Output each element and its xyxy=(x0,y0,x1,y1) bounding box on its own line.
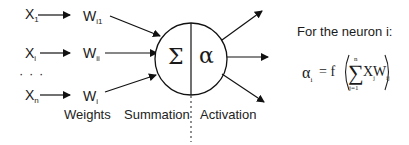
input-xi-label: X xyxy=(25,45,34,61)
input-xi-sub: i xyxy=(34,54,36,63)
weight-w1: Wi1 xyxy=(83,8,102,26)
formula-lower-limit: j=1 xyxy=(349,84,358,92)
weight-wn-sub: i xyxy=(96,97,98,106)
formula-w-sub: ij xyxy=(386,75,389,81)
weight-wi-label: W xyxy=(83,45,96,61)
input-x1-sub: 1 xyxy=(34,15,38,24)
formula-lhs: αi xyxy=(302,64,312,84)
output-arrow-bottom xyxy=(222,74,264,102)
weights-label: Weights xyxy=(64,107,111,122)
input-xn-sub: n xyxy=(34,96,38,105)
weight-arrow-n xyxy=(105,75,156,92)
input-x1-label: X xyxy=(25,6,34,22)
weight-w1-sub: i1 xyxy=(96,17,102,26)
input-xn: Xn xyxy=(25,87,39,105)
weight-w1-label: W xyxy=(83,8,96,24)
formula-x: X xyxy=(363,64,373,79)
ellipsis: · · · xyxy=(19,66,44,81)
formula-alpha-sub: i xyxy=(310,76,312,84)
activation-label: Activation xyxy=(200,107,256,122)
weight-wn-label: W xyxy=(83,88,96,104)
formula-sum-symbol: ∑ xyxy=(348,60,364,86)
formula-heading: For the neuron i: xyxy=(297,24,392,39)
weight-wn: Wi xyxy=(83,88,98,106)
weight-arrow-1 xyxy=(110,16,160,36)
output-arrow-top xyxy=(222,11,262,40)
formula-equals-f: = f xyxy=(319,64,335,80)
input-x1: X1 xyxy=(25,6,39,24)
formula-w: W xyxy=(373,64,386,79)
weight-wi: Wii xyxy=(83,45,100,63)
input-xi: Xi xyxy=(25,45,36,63)
summation-symbol: Σ xyxy=(168,44,184,69)
activation-symbol: α xyxy=(199,43,214,68)
input-xn-label: X xyxy=(25,87,34,103)
summation-label: Summation xyxy=(124,107,190,122)
formula-term-w: Wij xyxy=(373,64,390,81)
weight-wi-sub: ii xyxy=(96,54,100,63)
